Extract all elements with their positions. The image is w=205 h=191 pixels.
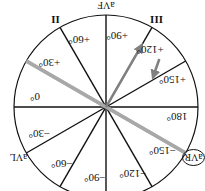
angle-label-3: +90° bbox=[106, 30, 128, 42]
angle-label-9: −90° bbox=[84, 172, 106, 184]
lead-label-iii: III bbox=[150, 14, 163, 26]
angle-label-7: −150° bbox=[149, 145, 176, 157]
rotated-group: 0°+30°+60°+90°+120°+150°180°−150°−120°−9… bbox=[10, 0, 205, 191]
angle-label-2: +60° bbox=[68, 34, 90, 46]
angle-label-10: −60° bbox=[51, 158, 73, 170]
angle-label-8: −120° bbox=[119, 168, 146, 180]
angle-label-0: 0° bbox=[30, 91, 40, 103]
angle-label-6: 180° bbox=[167, 111, 188, 123]
labels-group: 0°+30°+60°+90°+120°+150°180°−150°−120°−9… bbox=[10, 0, 205, 184]
lead-label-avr: aVR bbox=[184, 152, 203, 163]
lead-label-ii: II bbox=[51, 14, 60, 26]
hexaxial-diagram: 0°+30°+60°+90°+120°+150°180°−150°−120°−9… bbox=[0, 0, 205, 191]
secondary-vector bbox=[153, 59, 160, 78]
lead-label-avl: aVL bbox=[10, 152, 28, 163]
angle-label-11: −30° bbox=[29, 128, 51, 140]
angle-label-4: +120° bbox=[137, 44, 164, 56]
lead-label-avf: aVF bbox=[97, 0, 115, 11]
main-axis-vector bbox=[106, 45, 142, 107]
angle-label-5: +150° bbox=[159, 74, 186, 86]
angle-label-1: +30° bbox=[39, 57, 61, 69]
